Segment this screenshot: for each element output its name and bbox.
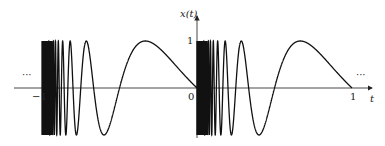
x-axis-label: t xyxy=(370,93,375,104)
tick-label-neg-one: −1 xyxy=(32,91,47,102)
y-axis-label: x(t) xyxy=(180,8,198,19)
ellipsis-right: ··· xyxy=(356,69,366,80)
tick-label-one: 1 xyxy=(350,91,356,102)
ellipsis-left: ··· xyxy=(22,69,32,80)
tick-label-y-one: 1 xyxy=(187,35,193,46)
periodic-chirp-figure: x(t) t −1 0 1 1 ··· ··· xyxy=(0,0,385,146)
tick-label-zero: 0 xyxy=(188,91,194,102)
